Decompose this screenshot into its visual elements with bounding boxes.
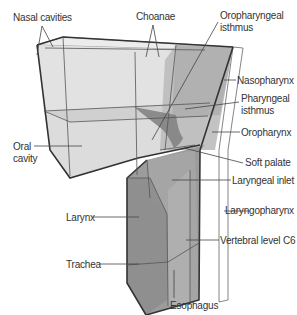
label-laryngopharynx: Laryngopharynx <box>225 205 294 216</box>
lower-column <box>127 145 205 315</box>
label-oral-cavity-1: Oral <box>13 141 31 152</box>
pharynx-diagram: Nasal cavities Choanae Oropharyngeal ist… <box>0 0 297 315</box>
label-oropharyngeal-isthmus-1: Oropharyngeal <box>220 10 284 21</box>
label-nasal-cavities: Nasal cavities <box>13 12 72 23</box>
label-laryngeal-inlet: Laryngeal inlet <box>232 175 294 186</box>
label-larynx: Larynx <box>66 212 95 223</box>
label-nasopharynx: Nasopharynx <box>237 75 294 86</box>
label-soft-palate: Soft palate <box>245 157 291 168</box>
label-oral-cavity-2: cavity <box>13 153 38 164</box>
label-choanae: Choanae <box>136 11 176 22</box>
label-trachea: Trachea <box>66 259 102 270</box>
label-oropharyngeal-isthmus-2: isthmus <box>220 22 253 33</box>
label-vertebral-level-c6: Vertebral level C6 <box>220 235 296 246</box>
label-esophagus: Esophagus <box>170 300 218 311</box>
label-oropharynx: Oropharynx <box>241 127 291 138</box>
label-pharyngeal-isthmus-1: Pharyngeal <box>241 93 290 104</box>
label-pharyngeal-isthmus-2: isthmus <box>241 105 274 116</box>
